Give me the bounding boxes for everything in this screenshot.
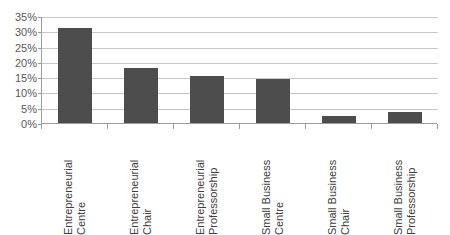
bar [190,76,224,123]
gridline [42,78,438,79]
y-tick-label: 10% [0,88,37,99]
x-category-4: Small BusinessCentre [239,129,305,235]
x-tick-label: EntrepreneurialChair [128,129,153,235]
x-tick-label: EntrepreneurialProfessorship [194,129,219,235]
y-tick-label: 15% [0,73,37,84]
y-tick-mark [38,17,42,18]
y-tick-label: 0% [0,119,37,130]
gridline [42,48,438,49]
x-category-2: EntrepreneurialChair [107,129,173,235]
y-tick-mark [38,48,42,49]
x-tick-label: Small BusinessCentre [260,129,285,235]
x-category-5: Small BusinessChair [305,129,371,235]
bar-chart: 0%5%10%15%20%25%30%35% EntrepreneurialCe… [0,0,450,235]
x-tick-label: EntrepreneurialCentre [62,129,87,235]
bar [124,68,158,123]
y-tick-label: 5% [0,103,37,114]
y-tick-label: 30% [0,27,37,38]
bar [58,28,92,123]
x-tick-label: Small BusinessProfessorship [392,129,417,235]
y-tick-label: 20% [0,57,37,68]
x-category-6: Small BusinessProfessorship [371,129,437,235]
x-category-1: EntrepreneurialCentre [41,129,107,235]
y-tick-label: 35% [0,12,37,23]
y-tick-mark [38,78,42,79]
y-tick-label: 25% [0,42,37,53]
y-axis: 0%5%10%15%20%25%30%35% [0,0,37,235]
bar [256,79,290,123]
gridline [42,93,438,94]
y-tick-mark [38,93,42,94]
y-tick-mark [38,32,42,33]
x-category-3: EntrepreneurialProfessorship [173,129,239,235]
bar [388,112,422,123]
gridline [42,32,438,33]
bar [322,116,356,123]
gridline [42,17,438,18]
gridline [42,109,438,110]
y-tick-mark [38,63,42,64]
gridline [42,63,438,64]
x-tick-label: Small BusinessChair [326,129,351,235]
y-tick-mark [38,109,42,110]
x-axis: EntrepreneurialCentreEntrepreneurialChai… [41,129,438,235]
plot-area [41,17,437,124]
